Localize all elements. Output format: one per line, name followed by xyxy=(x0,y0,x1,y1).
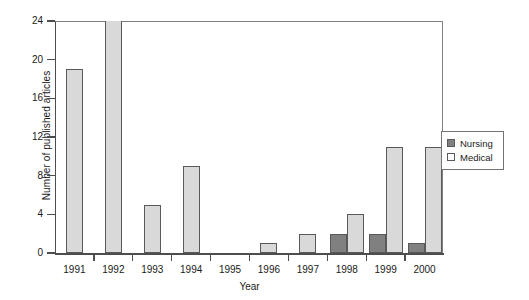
y-tick-mark xyxy=(47,214,55,215)
x-tick-label: 2000 xyxy=(398,264,452,275)
legend-item-nursing[interactable]: Nursing xyxy=(447,136,498,150)
x-tick-mark xyxy=(210,254,211,261)
y-tick-label: 12 xyxy=(10,132,43,142)
x-tick-mark xyxy=(288,254,289,261)
legend-swatch-nursing xyxy=(447,139,455,147)
y-tick-label: 8 xyxy=(10,171,43,181)
bar-medical-1998 xyxy=(347,214,364,253)
chart-legend: NursingMedical xyxy=(441,131,504,170)
y-tick-label: 0 xyxy=(10,248,43,258)
bar-medical-1996 xyxy=(260,243,277,253)
x-tick-mark xyxy=(93,254,94,261)
bar-medical-1994 xyxy=(183,166,200,253)
y-tick-label: 20 xyxy=(10,55,43,65)
x-tick-mark xyxy=(404,254,405,261)
bar-nursing-1999 xyxy=(369,234,386,253)
x-tick-mark xyxy=(249,254,250,261)
x-tick-mark xyxy=(327,254,328,261)
y-tick-label: 16 xyxy=(10,93,43,103)
bar-nursing-1998 xyxy=(330,234,347,253)
y-tick-mark xyxy=(47,98,55,99)
y-tick-mark xyxy=(47,136,55,137)
legend-swatch-medical xyxy=(447,153,455,161)
y-tick-mark xyxy=(47,20,55,21)
bar-medical-1999 xyxy=(386,147,403,253)
y-tick-label: 24 xyxy=(10,16,43,26)
bar-medical-2000 xyxy=(425,147,442,253)
x-tick-mark xyxy=(132,254,133,261)
bar-medical-1991 xyxy=(66,69,83,253)
bar-medical-1992 xyxy=(105,21,122,253)
legend-label: Medical xyxy=(460,152,493,163)
legend-item-medical[interactable]: Medical xyxy=(447,150,498,164)
bar-medical-1997 xyxy=(299,234,316,253)
y-tick-mark xyxy=(47,59,55,60)
y-tick-mark xyxy=(47,252,55,253)
x-tick-mark xyxy=(171,254,172,261)
bar-medical-1993 xyxy=(144,205,161,253)
bar-nursing-2000 xyxy=(408,243,425,253)
y-tick-label: 4 xyxy=(10,209,43,219)
x-axis-title: Year xyxy=(55,281,444,292)
legend-label: Nursing xyxy=(460,138,493,149)
y-tick-mark xyxy=(47,175,55,176)
bar-chart-figure: Number of published articles 04812162024… xyxy=(0,0,529,300)
x-tick-mark xyxy=(366,254,367,261)
